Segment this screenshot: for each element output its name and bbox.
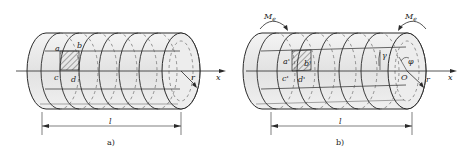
- label-d: d: [71, 75, 76, 84]
- caption-b: b): [336, 138, 344, 147]
- label-c: c: [54, 73, 59, 82]
- axis-label-x-b: x: [448, 73, 453, 82]
- caption-a: a): [107, 138, 115, 147]
- element-abcd-a: [60, 51, 79, 70]
- moment-label-left: Me: [263, 12, 276, 22]
- length-label-a: l: [109, 117, 112, 126]
- label-c-prime: c': [282, 74, 289, 83]
- torsion-diagram: a b c d x r l a): [0, 0, 471, 157]
- moment-label-right: Me: [404, 12, 417, 22]
- cylinder-a: [16, 33, 226, 135]
- gamma-label: γ: [382, 51, 387, 60]
- label-b-prime: b': [304, 59, 311, 68]
- label-d-prime: d': [298, 75, 305, 84]
- phi-label: φ: [408, 57, 414, 66]
- label-a-prime: a': [283, 57, 290, 66]
- length-label-b: l: [339, 117, 342, 126]
- center-label: O: [401, 73, 408, 82]
- moment-arrow-right: [399, 21, 426, 29]
- label-b: b: [77, 41, 82, 50]
- radius-label-b: r: [426, 75, 431, 84]
- moment-arrow-left: [260, 21, 287, 29]
- cylinder-b: [243, 21, 457, 135]
- axis-label-x-a: x: [216, 73, 221, 82]
- label-a: a: [55, 44, 60, 53]
